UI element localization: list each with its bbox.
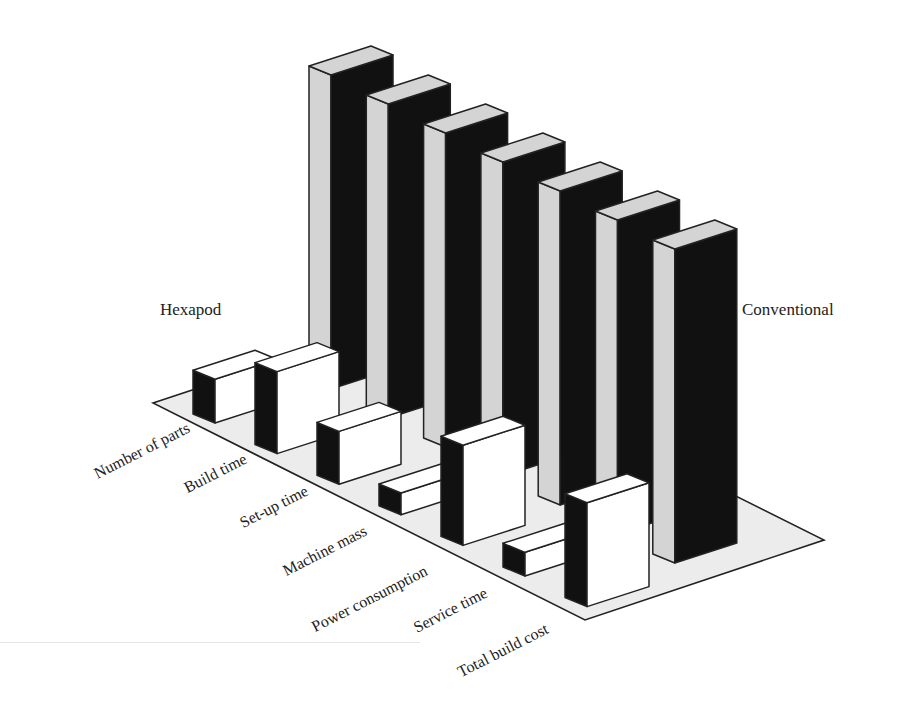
hexapod-bar-4-front-face (463, 425, 525, 545)
legend-label-conventional: Conventional (742, 300, 834, 320)
legend-label-hexapod: Hexapod (160, 300, 221, 320)
conventional-bar-6-front-face (675, 229, 737, 563)
hexapod-bar-2-side-face (317, 422, 339, 484)
hexapod-bar-1-side-face (255, 363, 277, 454)
conventional-bar-0-side-face (309, 66, 331, 389)
hexapod-bar-6-side-face (565, 494, 587, 607)
conventional-bar-6-side-face (653, 240, 675, 563)
divider-line (0, 642, 420, 643)
hexapod-bar-6-front-face (587, 483, 649, 607)
hexapod-bar-4-side-face (441, 436, 463, 545)
bar-group (193, 46, 737, 607)
conventional-bar-2-side-face (424, 124, 446, 447)
conventional-bar-1-side-face (366, 95, 388, 418)
conventional-bar-4-side-face (538, 182, 560, 505)
